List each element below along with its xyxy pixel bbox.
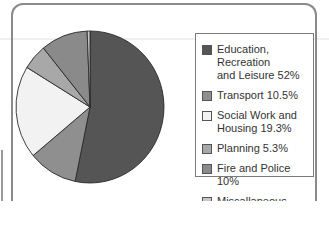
legend-item-miscellaneous: Miscallaneous 0.6% — [202, 195, 313, 201]
legend-item-social-work: Social Work and Housing 19.3% — [202, 109, 313, 135]
legend-label: Fire and Police 10% — [217, 162, 313, 188]
pie-chart — [14, 30, 168, 186]
legend-label: Miscallaneous 0.6% — [217, 195, 313, 201]
legend-label: Transport 10.5% — [217, 89, 298, 102]
legend-item-education: Education, Recreation and Leisure 52% — [202, 43, 313, 82]
legend-label: Education, Recreation and Leisure 52% — [217, 43, 313, 82]
legend-swatch-icon — [202, 144, 212, 154]
legend-swatch-icon — [202, 45, 212, 55]
legend-item-fire-police: Fire and Police 10% — [202, 162, 313, 188]
legend-item-transport: Transport 10.5% — [202, 89, 313, 102]
legend-swatch-icon — [202, 91, 212, 101]
page-edge-line — [1, 150, 3, 201]
chart-legend: Education, Recreation and Leisure 52% Tr… — [195, 33, 314, 177]
legend-swatch-icon — [202, 164, 212, 174]
legend-label: Planning 5.3% — [217, 142, 288, 155]
legend-swatch-icon — [202, 111, 212, 121]
legend-label: Social Work and Housing 19.3% — [217, 109, 297, 135]
legend-item-planning: Planning 5.3% — [202, 142, 313, 155]
legend-swatch-icon — [202, 197, 212, 201]
